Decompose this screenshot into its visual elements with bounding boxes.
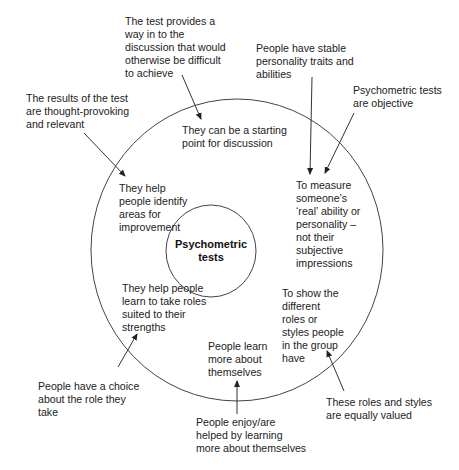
statement-learn-themselves: People learn more about themselves [208, 340, 268, 379]
statement-take-roles: They help people learn to take roles sui… [122, 282, 206, 334]
statement-measure-real: To measure someone’s ‘real’ ability or p… [296, 179, 360, 270]
arrow-way-in [182, 75, 201, 119]
center-label: Psychometric tests [168, 238, 254, 264]
assumption-stable-traits: People have stable personality traits an… [256, 42, 354, 81]
arrow-choice [118, 334, 137, 367]
assumption-thought-provoking: The results of the test are thought-prov… [26, 92, 129, 131]
assumption-choice: People have a choice about the role they… [38, 380, 139, 419]
statement-identify-areas: They help people identify areas for impr… [119, 182, 187, 234]
statement-starting-point: They can be a starting point for discuss… [182, 124, 287, 150]
arrow-objective [325, 113, 354, 173]
assumption-way-in: The test provides a way in to the discus… [125, 15, 226, 80]
assumption-objective: Psychometric tests are objective [353, 84, 442, 110]
statement-show-roles: To show the different roles or styles pe… [282, 287, 344, 365]
arrow-stable-traits [310, 77, 312, 174]
assumption-enjoy-learning: People enjoy/are helped by learning more… [196, 416, 306, 455]
assumption-equally-valued: These roles and styles are equally value… [326, 396, 432, 422]
arrow-thought-provoking [84, 133, 125, 176]
